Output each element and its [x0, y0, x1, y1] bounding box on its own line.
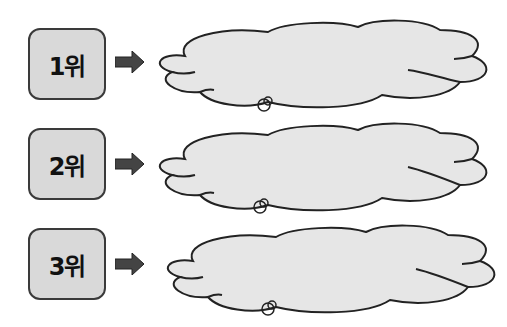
thought-cloud-1	[150, 12, 490, 117]
arrow-right-icon	[115, 153, 145, 175]
thought-cloud-3	[158, 217, 498, 322]
rank-label-3: 3위	[49, 247, 86, 282]
rank-label-1: 1위	[49, 47, 86, 82]
arrow-right-icon	[115, 253, 145, 275]
rank-box-3: 3위	[28, 228, 106, 300]
thought-cloud-2	[150, 115, 490, 220]
rank-label-2: 2위	[49, 147, 86, 182]
rank-box-1: 1위	[28, 28, 106, 100]
arrow-right-icon	[115, 51, 145, 73]
rank-box-2: 2위	[28, 128, 106, 200]
